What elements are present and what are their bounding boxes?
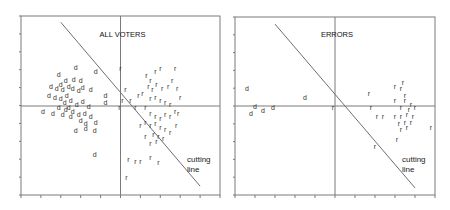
chart-canvas: ALL VOTERScuttinglineddddddddddddddddddd… xyxy=(0,0,450,210)
data-point-r: r xyxy=(125,174,128,181)
data-point-d: d xyxy=(49,83,53,90)
data-point-r: r xyxy=(154,113,157,120)
data-point-d: d xyxy=(72,76,76,83)
data-point-d: d xyxy=(93,127,97,134)
data-point-r: r xyxy=(394,83,397,90)
data-point-d: d xyxy=(104,92,108,99)
cutting-line-label: cuttingline xyxy=(402,155,426,174)
data-point-d: d xyxy=(104,99,108,106)
data-point-r: r xyxy=(394,97,397,104)
data-point-r: r xyxy=(155,81,158,88)
data-point-r: r xyxy=(430,124,433,131)
data-point-d: d xyxy=(81,84,85,91)
data-point-d: d xyxy=(79,117,83,124)
data-point-r: r xyxy=(332,104,335,111)
data-point-d: d xyxy=(53,94,57,101)
data-point-r: r xyxy=(374,143,377,150)
data-point-r: r xyxy=(414,104,417,111)
data-point-r: r xyxy=(119,65,122,72)
data-point-d: d xyxy=(69,97,73,104)
data-point-d: d xyxy=(271,104,275,111)
data-point-d: d xyxy=(83,110,87,117)
data-point-r: r xyxy=(164,99,167,106)
data-point-d: d xyxy=(94,68,98,75)
data-point-r: r xyxy=(151,86,154,93)
data-point-d: d xyxy=(81,98,85,105)
data-point-r: r xyxy=(149,110,152,117)
panel-all-voters: ALL VOTERScuttinglineddddddddddddddddddd… xyxy=(19,16,220,198)
data-point-r: r xyxy=(159,124,162,131)
data-point-d: d xyxy=(57,104,61,111)
data-point-r: r xyxy=(164,111,167,118)
data-point-r: r xyxy=(141,90,144,97)
data-point-r: r xyxy=(154,68,157,75)
data-point-r: r xyxy=(127,156,130,163)
data-point-r: r xyxy=(171,77,174,84)
data-point-r: r xyxy=(400,113,403,120)
data-point-d: d xyxy=(89,113,93,120)
data-point-r: r xyxy=(134,158,137,165)
data-point-r: r xyxy=(412,113,415,120)
data-point-r: r xyxy=(167,83,170,90)
data-point-d: d xyxy=(93,151,97,158)
data-point-r: r xyxy=(176,85,179,92)
data-point-r: r xyxy=(169,101,172,108)
data-point-r: r xyxy=(157,159,160,166)
data-point-d: d xyxy=(61,111,65,118)
data-point-r: r xyxy=(162,135,165,142)
data-point-d: d xyxy=(55,85,59,92)
data-point-d: d xyxy=(75,101,79,108)
data-point-r: r xyxy=(145,72,148,79)
data-point-d: d xyxy=(47,92,51,99)
data-point-d: d xyxy=(41,108,45,115)
panel-title: ALL VOTERS xyxy=(100,30,146,39)
panel-title: ERRORS xyxy=(321,30,353,39)
data-point-r: r xyxy=(164,126,167,133)
data-point-d: d xyxy=(57,71,61,78)
data-point-d: d xyxy=(71,85,75,92)
cutting-line-label: cuttingline xyxy=(187,155,211,174)
data-point-r: r xyxy=(144,104,147,111)
data-point-r: r xyxy=(174,65,177,72)
data-point-r: r xyxy=(376,113,379,120)
data-point-r: r xyxy=(137,92,140,99)
data-point-r: r xyxy=(179,94,182,101)
data-point-d: d xyxy=(253,103,257,110)
data-point-d: d xyxy=(89,86,93,93)
data-point-r: r xyxy=(149,77,152,84)
data-point-r: r xyxy=(129,97,132,104)
data-point-r: r xyxy=(144,133,147,140)
data-point-d: d xyxy=(79,77,83,84)
data-point-d: d xyxy=(87,103,91,110)
data-point-r: r xyxy=(396,136,399,143)
data-point-d: d xyxy=(84,125,88,132)
data-point-d: d xyxy=(94,119,98,126)
data-point-r: r xyxy=(149,140,152,147)
data-point-r: r xyxy=(382,113,385,120)
data-point-r: r xyxy=(410,101,413,108)
data-point-d: d xyxy=(69,113,73,120)
data-point-d: d xyxy=(67,104,71,111)
panel-errors: ERRORScuttinglineddddddrrrrrrrrrrrrrrrrr… xyxy=(233,17,435,198)
data-point-d: d xyxy=(303,94,307,101)
data-point-r: r xyxy=(149,95,152,102)
data-point-r: r xyxy=(121,97,124,104)
data-point-r: r xyxy=(154,120,157,127)
data-point-r: r xyxy=(175,122,178,129)
data-point-r: r xyxy=(139,158,142,165)
data-point-r: r xyxy=(368,90,371,97)
data-point-d: d xyxy=(249,110,253,117)
data-point-r: r xyxy=(402,79,405,86)
data-point-r: r xyxy=(161,85,164,92)
data-point-r: r xyxy=(149,154,152,161)
data-point-d: d xyxy=(74,64,78,71)
data-point-r: r xyxy=(169,129,172,136)
data-point-r: r xyxy=(404,97,407,104)
data-point-d: d xyxy=(245,85,249,92)
data-point-r: r xyxy=(134,104,137,111)
data-point-r: r xyxy=(159,97,162,104)
data-point-r: r xyxy=(159,65,162,72)
data-point-r: r xyxy=(400,126,403,133)
data-point-r: r xyxy=(124,86,127,93)
data-point-d: d xyxy=(261,107,265,114)
